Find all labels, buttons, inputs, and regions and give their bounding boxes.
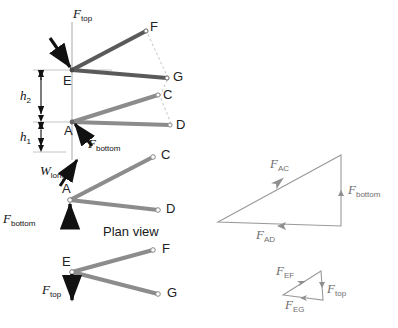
member-EF [72, 31, 146, 70]
plan-view-caption: Plan view [103, 225, 159, 238]
plan-joint-E [70, 270, 75, 275]
joint-D [168, 123, 172, 127]
force-subscript-top: top [335, 289, 346, 298]
joint-F [144, 29, 148, 33]
force-label-f-bottom-elevation: Fbottom [88, 137, 120, 153]
plan-upper-group [68, 155, 161, 228]
dimension-lines [38, 70, 44, 152]
dimension-h2-arrow-top [38, 70, 44, 77]
force-subscript-bottom: bottom [96, 144, 120, 153]
force-arrowhead-fad [277, 222, 286, 230]
joint-C [156, 93, 160, 97]
figure-canvas: E A F G C D Ftop Fbottom Wlong h2 h1 A C… [0, 0, 398, 328]
node-label-E-elevation: E [63, 74, 72, 87]
node-label-C-plan: C [161, 148, 170, 161]
plan-joint-G [156, 292, 161, 297]
force-subscript-bottom: bottom [356, 190, 380, 199]
dimension-label-h2: h2 [20, 89, 31, 105]
plan-joint-A [68, 198, 73, 203]
force-label-w-long: Wlong [40, 164, 66, 180]
node-label-F-plan: F [162, 242, 170, 255]
dimension-h1-arrow-top [38, 122, 44, 129]
force-subscript-AD: AD [264, 235, 275, 244]
force-label-feg: FEG [285, 298, 305, 314]
node-label-G-plan: G [167, 286, 177, 299]
dimension-subscript-1: 1 [27, 137, 31, 146]
force-symbol-F: F [285, 297, 293, 312]
force-label-fad: FAD [256, 228, 275, 244]
force-label-f-top-elevation: Ftop [73, 7, 92, 23]
dimension-label-h1: h1 [20, 130, 31, 146]
force-symbol-F: F [3, 211, 11, 226]
force-label-fbottom-triangle: Fbottom [348, 183, 380, 199]
force-subscript-EF: EF [284, 271, 294, 280]
force-subscript-top: top [50, 290, 61, 299]
member-AC [72, 95, 158, 122]
force-label-f-bottom-plan: Fbottom [3, 212, 35, 228]
force-arrowhead-fbottom [338, 190, 344, 196]
force-subscript-top: top [81, 14, 92, 23]
member-EG [72, 70, 167, 78]
force-label-f-top-plan: Ftop [42, 283, 61, 299]
dimension-subscript-2: 2 [27, 96, 31, 105]
force-label-fef: FEF [276, 264, 294, 280]
node-label-G-elevation: G [173, 70, 183, 83]
dimension-h1-arrow-bottom [38, 145, 44, 152]
force-symbol-F: F [88, 136, 96, 151]
force-symbol-F: F [348, 182, 356, 197]
member-AD [72, 122, 170, 125]
force-symbol-W: W [40, 163, 51, 178]
node-label-D-plan: D [166, 202, 175, 215]
node-label-A-plan: A [62, 182, 71, 195]
force-symbol-F: F [327, 281, 335, 296]
node-label-E-plan: E [62, 255, 71, 268]
force-arrow-f-top-elevation [50, 38, 70, 67]
force-subscript-EG: EG [293, 305, 305, 314]
node-label-D-elevation: D [176, 118, 185, 131]
force-arrowhead-ftop-tri [319, 282, 325, 288]
joint-G [165, 76, 169, 80]
plan-joint-C [151, 155, 156, 160]
force-label-ftop-triangle: Ftop [327, 282, 346, 298]
force-subscript-AC: AC [278, 164, 289, 173]
force-subscript-bottom: bottom [11, 219, 35, 228]
force-subscript-long: long [51, 171, 66, 180]
force-symbol-F: F [42, 282, 50, 297]
joint-E-elev [70, 68, 75, 73]
dimension-h2-arrow-bottom [38, 115, 44, 122]
plan-member-AC [70, 157, 153, 200]
node-label-C-elevation: C [163, 88, 172, 101]
plan-joint-F [151, 248, 156, 253]
force-symbol-F: F [270, 156, 278, 171]
force-label-fac: FAC [270, 157, 289, 173]
plan-joint-D [156, 208, 161, 213]
plan-lower-group [70, 248, 161, 300]
plan-member-EG [72, 272, 158, 294]
force-symbol-F: F [256, 227, 264, 242]
node-label-F-elevation: F [150, 20, 158, 33]
force-symbol-F: F [276, 263, 284, 278]
upper-arms [72, 29, 169, 80]
node-label-A-elevation: A [64, 124, 73, 137]
force-symbol-F: F [73, 6, 81, 21]
plan-member-AD [70, 200, 158, 210]
plan-member-EF [72, 250, 153, 272]
